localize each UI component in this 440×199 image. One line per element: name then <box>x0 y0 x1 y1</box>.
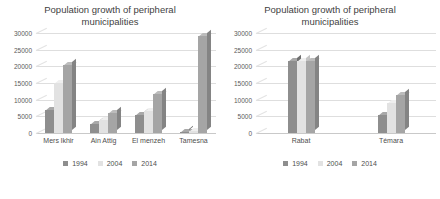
y-axis-tick-label: 30000 <box>14 30 32 37</box>
legend-swatch-icon <box>132 161 137 166</box>
legend-label: 2014 <box>141 160 157 167</box>
y-axis-tick-label: 25000 <box>14 46 32 53</box>
bar-side-face <box>162 88 166 130</box>
bar-2014-ain-attig[interactable] <box>108 113 117 133</box>
bar-front-face <box>90 124 99 133</box>
legend-swatch-icon <box>63 161 68 166</box>
bar-2014-el-menzeh[interactable] <box>153 94 162 133</box>
bar-2004-tamesna[interactable] <box>189 131 198 133</box>
chart-legend: 199420042014 <box>220 160 440 167</box>
bar-front-face <box>189 131 198 133</box>
bar-front-face <box>396 95 405 133</box>
y-axis-tick-label: 10000 <box>234 96 252 103</box>
bar-side-face <box>207 30 211 130</box>
x-axis-category-label: El menzeh <box>126 137 171 144</box>
bar-front-face <box>306 61 315 133</box>
x-axis-category-label: Ain Attig <box>81 137 126 144</box>
bar-front-face <box>387 103 396 133</box>
legend-label: 2004 <box>327 160 343 167</box>
bar-front-face <box>153 94 162 133</box>
bar-side-face <box>72 59 76 130</box>
bar-2004-mers-lkhir[interactable] <box>54 83 63 133</box>
bar-2004-rabat[interactable] <box>297 61 306 133</box>
bar-2004-témara[interactable] <box>387 103 396 133</box>
charts-board: Population growth of peripheral municipa… <box>0 0 440 199</box>
y-axis-tick-label: 25000 <box>234 46 252 53</box>
bar-1994-el-menzeh[interactable] <box>135 115 144 133</box>
bar-side-face <box>405 89 409 130</box>
y-axis-tick-label: 15000 <box>14 80 32 87</box>
bar-2004-ain-attig[interactable] <box>99 120 108 133</box>
chart-panel-right: Population growth of peripheral municipa… <box>220 0 440 199</box>
legend-swatch-icon <box>352 161 357 166</box>
chart-panel-left: Population growth of peripheral municipa… <box>0 0 220 199</box>
bar-1994-ain-attig[interactable] <box>90 124 99 133</box>
chart-legend: 199420042014 <box>0 160 220 167</box>
legend-label: 2004 <box>107 160 123 167</box>
bar-2014-tamesna[interactable] <box>198 36 207 133</box>
bar-front-face <box>135 115 144 133</box>
bar-front-face <box>45 110 54 133</box>
x-axis-category-label: Rabat <box>256 137 346 144</box>
chart-title: Population growth of peripheral municipa… <box>220 0 440 25</box>
legend-swatch-icon <box>98 161 103 166</box>
plot-area: 050001000015000200002500030000 Mers lkhi… <box>0 33 220 145</box>
x-axis-categories: RabatTémara <box>256 137 436 144</box>
y-axis-tick-label: 20000 <box>234 63 252 70</box>
y-axis-tick-label: 5000 <box>18 113 32 120</box>
bar-2014-témara[interactable] <box>396 95 405 133</box>
legend-label: 2014 <box>361 160 377 167</box>
bar-front-face <box>99 120 108 133</box>
bar-group <box>256 33 346 133</box>
bar-side-face <box>315 55 319 130</box>
bar-group <box>81 33 126 133</box>
bar-group <box>346 33 436 133</box>
bar-front-face <box>144 111 153 133</box>
x-axis-categories: Mers lkhirAin AttigEl menzehTamesna <box>36 137 216 144</box>
legend-swatch-icon <box>283 161 288 166</box>
bar-groups <box>256 33 436 133</box>
y-axis-tick-label: 10000 <box>14 96 32 103</box>
bar-1994-témara[interactable] <box>378 115 387 133</box>
grid-line <box>36 133 216 134</box>
bar-groups <box>36 33 216 133</box>
bar-front-face <box>198 36 207 133</box>
y-axis-ticks: 050001000015000200002500030000 <box>220 33 254 133</box>
bar-1994-mers-lkhir[interactable] <box>45 110 54 133</box>
bar-front-face <box>63 65 72 133</box>
plot-area: 050001000015000200002500030000 RabatTéma… <box>220 33 440 145</box>
legend-item-2004[interactable]: 2004 <box>318 160 343 167</box>
y-axis-tick-label: 0 <box>248 130 252 137</box>
legend-item-2004[interactable]: 2004 <box>98 160 123 167</box>
bar-front-face <box>378 115 387 133</box>
bar-front-face <box>297 61 306 133</box>
bar-2014-rabat[interactable] <box>306 61 315 133</box>
x-axis-category-label: Tamesna <box>171 137 216 144</box>
legend-label: 1994 <box>72 160 88 167</box>
legend-label: 1994 <box>292 160 308 167</box>
legend-item-2014[interactable]: 2014 <box>352 160 377 167</box>
bar-group <box>36 33 81 133</box>
y-axis-ticks: 050001000015000200002500030000 <box>0 33 34 133</box>
bar-2004-el-menzeh[interactable] <box>144 111 153 133</box>
x-axis-category-label: Mers lkhir <box>36 137 81 144</box>
legend-item-1994[interactable]: 1994 <box>283 160 308 167</box>
bar-front-face <box>54 83 63 133</box>
y-axis-tick-label: 15000 <box>234 80 252 87</box>
bar-side-face <box>117 107 121 130</box>
legend-item-2014[interactable]: 2014 <box>132 160 157 167</box>
bar-group <box>171 33 216 133</box>
bar-front-face <box>108 113 117 133</box>
legend-swatch-icon <box>318 161 323 166</box>
chart-title: Population growth of peripheral municipa… <box>0 0 220 25</box>
y-axis-tick-label: 5000 <box>238 113 252 120</box>
y-axis-tick-label: 30000 <box>234 30 252 37</box>
bar-group <box>126 33 171 133</box>
legend-item-1994[interactable]: 1994 <box>63 160 88 167</box>
y-axis-tick-label: 20000 <box>14 63 32 70</box>
y-axis-tick-label: 0 <box>28 130 32 137</box>
bar-front-face <box>288 61 297 133</box>
grid-line <box>256 133 436 134</box>
bar-1994-rabat[interactable] <box>288 61 297 133</box>
bar-2014-mers-lkhir[interactable] <box>63 65 72 133</box>
